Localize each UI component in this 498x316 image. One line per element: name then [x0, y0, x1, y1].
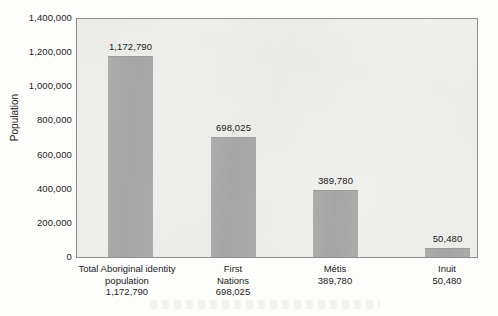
plot-inner: 1,172,790 698,025 389,780 50,480 [77, 19, 477, 257]
y-tick-label: 1,000,000 [8, 80, 72, 91]
x-tick-label-line: Métis [289, 263, 381, 275]
x-tick-label-metis: Métis 389,780 [289, 263, 381, 286]
bar-value-label: 389,780 [290, 175, 381, 186]
y-tick-label: 0 [8, 251, 72, 262]
x-tick-label-line: 698,025 [187, 286, 279, 298]
y-tick-label: 1,200,000 [8, 46, 72, 57]
plot-area: 1,172,790 698,025 389,780 50,480 [76, 18, 478, 258]
x-tick-label-first-nations: First Nations 698,025 [187, 263, 279, 298]
bar-value-label: 50,480 [402, 233, 478, 244]
y-tick-label: 400,000 [8, 183, 72, 194]
bar-value-label: 698,025 [188, 122, 279, 133]
bar-inuit[interactable] [425, 248, 470, 257]
y-tick-label: 200,000 [8, 217, 72, 228]
x-tick-label-line: 50,480 [401, 275, 493, 287]
bar-metis[interactable] [313, 190, 358, 257]
bar-value-label: 1,172,790 [85, 41, 176, 52]
x-tick-label-line: Inuit [401, 263, 493, 275]
y-tick-label: 600,000 [8, 149, 72, 160]
x-tick-label-inuit: Inuit 50,480 [401, 263, 493, 286]
scan-bleedthrough-artifact [150, 300, 380, 309]
y-axis-tick-labels: 1,400,000 1,200,000 1,000,000 800,000 60… [4, 18, 72, 258]
x-tick-label-line: Nations [187, 275, 279, 287]
bar-chart-figure: Population 1,400,000 1,200,000 1,000,000… [0, 0, 498, 316]
bar-first-nations[interactable] [211, 137, 256, 257]
y-tick-label: 800,000 [8, 114, 72, 125]
x-tick-label-line: 389,780 [289, 275, 381, 287]
y-tick-label: 1,400,000 [8, 12, 72, 23]
bar-total-aboriginal-identity-population[interactable] [108, 56, 153, 257]
x-tick-label-line: First [187, 263, 279, 275]
